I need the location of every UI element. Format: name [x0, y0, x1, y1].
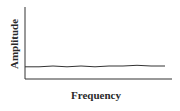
amplitude-frequency-chart: Amplitude Frequency	[0, 0, 180, 111]
signal-line	[25, 65, 165, 67]
x-axis-label: Frequency	[71, 89, 121, 101]
y-axis-label: Amplitude	[8, 19, 20, 69]
